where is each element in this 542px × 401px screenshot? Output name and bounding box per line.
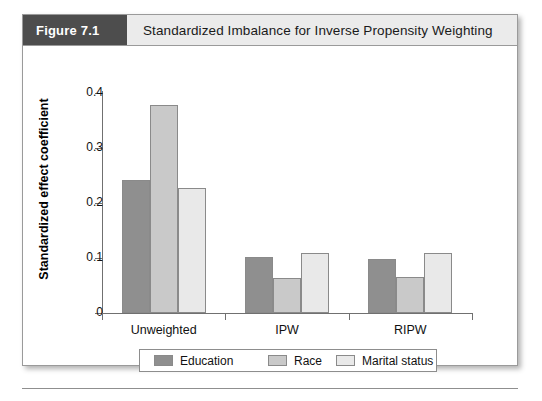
y-axis-tick: 0.3 xyxy=(23,148,103,149)
chart-legend: EducationRaceMarital status xyxy=(139,349,437,372)
bar xyxy=(122,180,150,313)
bar xyxy=(150,105,178,313)
y-axis-title-text: Standardized effect coefficient xyxy=(37,74,51,304)
legend-swatch xyxy=(268,355,287,366)
legend-item: Marital status xyxy=(336,354,433,368)
legend-item: Race xyxy=(268,354,322,368)
y-axis-tick-label: 0.1 xyxy=(39,250,103,264)
x-axis-group-label: Unweighted xyxy=(131,323,197,337)
y-axis-title: Standardized effect coefficient xyxy=(37,0,51,74)
legend-label: Education xyxy=(180,354,233,368)
x-axis-tick-mark xyxy=(472,313,473,320)
bar xyxy=(368,259,396,313)
y-axis-tick: 0.2 xyxy=(23,203,103,204)
figure-header: Figure 7.1 Standardized Imbalance for In… xyxy=(23,15,517,45)
bar xyxy=(273,278,301,313)
figure-card: Figure 7.1 Standardized Imbalance for In… xyxy=(22,14,518,366)
legend-label: Race xyxy=(294,354,322,368)
figure-title: Standardized Imbalance for Inverse Prope… xyxy=(127,15,517,45)
x-axis-tick-mark xyxy=(349,313,350,320)
bar xyxy=(245,257,273,313)
legend-swatch xyxy=(336,355,355,366)
x-axis-tick-mark xyxy=(102,313,103,320)
bar xyxy=(178,188,206,313)
y-axis-tick-label: 0.2 xyxy=(39,195,103,209)
bar xyxy=(301,253,329,314)
x-axis-group-label: RIPW xyxy=(394,323,427,337)
bar xyxy=(396,277,424,313)
chart-plot-area: Standardized effect coefficient 00.10.20… xyxy=(23,45,517,365)
x-axis-group-label: IPW xyxy=(275,323,299,337)
y-axis-tick-label: 0.4 xyxy=(39,85,103,99)
y-axis-tick-label: 0 xyxy=(39,305,103,319)
legend-swatch xyxy=(154,355,173,366)
legend-label: Marital status xyxy=(362,354,433,368)
y-axis-tick: 0.1 xyxy=(23,258,103,259)
x-axis-tick-mark xyxy=(225,313,226,320)
bar xyxy=(424,253,452,314)
page-bottom-rule xyxy=(22,388,518,389)
x-axis-line xyxy=(102,313,472,314)
y-axis-tick-label: 0.3 xyxy=(39,140,103,154)
y-axis-tick: 0.4 xyxy=(23,93,103,94)
y-axis-tick: 0 xyxy=(23,313,103,314)
legend-item: Education xyxy=(154,354,233,368)
